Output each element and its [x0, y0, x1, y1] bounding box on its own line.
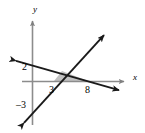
- y-axis-label: y: [33, 5, 37, 14]
- ascending-line: [24, 35, 104, 123]
- graph-figure: y x 2 –3 3 8: [0, 0, 145, 133]
- y-tick-label-minus-3: –3: [16, 100, 26, 110]
- x-tick-label-8: 8: [85, 85, 90, 95]
- y-tick-label-2: 2: [22, 62, 27, 72]
- x-tick-label-3: 3: [49, 85, 54, 95]
- x-axis-label: x: [133, 73, 137, 82]
- descending-line: [16, 61, 119, 90]
